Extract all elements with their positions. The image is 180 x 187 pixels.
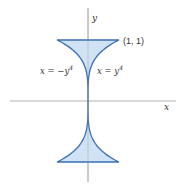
region-diagram: y x (1, 1) x = −y4 x = y4: [0, 0, 180, 187]
left-curve-equation: x = −y: [40, 66, 69, 76]
point-label: (1, 1): [123, 36, 144, 46]
right-curve-label: x = y4: [97, 64, 123, 76]
right-curve-equation: x = y: [97, 66, 119, 76]
y-axis-label: y: [91, 13, 98, 23]
right-curve-exponent: 4: [118, 64, 123, 71]
left-curve-label: x = −y4: [40, 64, 73, 76]
left-curve-exponent: 4: [68, 64, 73, 71]
x-axis-label: x: [164, 102, 169, 112]
